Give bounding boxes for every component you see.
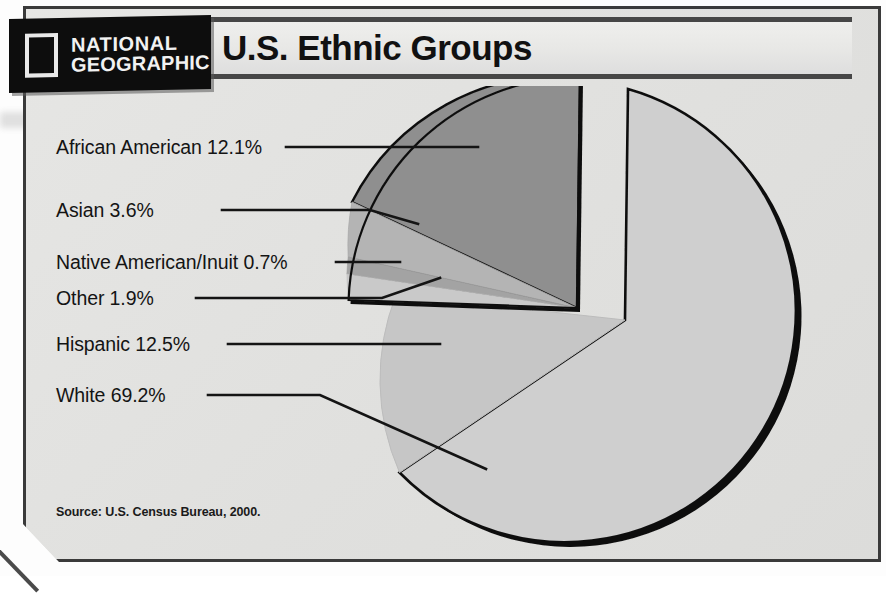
- label-hispanic: Hispanic 12.5%: [56, 333, 190, 356]
- yellow-rectangle-icon: [25, 33, 58, 78]
- page-title: U.S. Ethnic Groups: [222, 28, 532, 68]
- title-bar: U.S. Ethnic Groups: [180, 17, 852, 79]
- national-geographic-logo: NATIONAL GEOGRAPHIC: [9, 15, 211, 93]
- label-white: White 69.2%: [56, 384, 165, 407]
- label-other: Other 1.9%: [56, 287, 154, 310]
- pie-exploded-group: [347, 86, 583, 312]
- label-native-american: Native American/Inuit 0.7%: [56, 251, 288, 274]
- logo-wordmark: NATIONAL GEOGRAPHIC: [71, 32, 210, 75]
- pie-chart: African American 12.1% Asian 3.6% Native…: [0, 86, 858, 556]
- label-asian: Asian 3.6%: [56, 199, 154, 222]
- source-note: Source: U.S. Census Bureau, 2000.: [56, 505, 260, 519]
- logo-line-geographic: GEOGRAPHIC: [71, 52, 210, 75]
- label-african-american: African American 12.1%: [56, 136, 262, 159]
